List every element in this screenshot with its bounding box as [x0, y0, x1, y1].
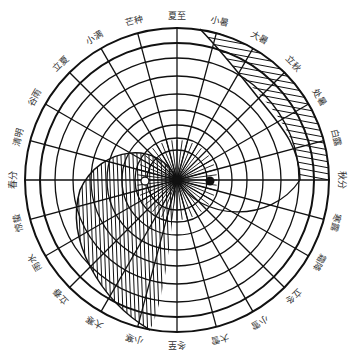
solar-term-label: 立春 — [50, 286, 71, 307]
solar-term-label: 小寒 — [124, 332, 144, 347]
hollow-eye-dot — [141, 177, 149, 185]
hatch-line — [190, 148, 340, 176]
hatch-line — [190, 46, 340, 74]
solar-term-label: 立冬 — [283, 286, 304, 307]
solar-term-label: 小满 — [84, 29, 105, 47]
solar-term-label: 小雪 — [249, 314, 270, 332]
hatch-line — [60, 130, 68, 340]
solar-terms-diagram: 夏至小暑大暑立秋处暑白露秋分寒露霜降立冬小雪大雪冬至小寒大寒立春雨水惊蛰春分清明… — [0, 0, 355, 358]
solar-term-label: 雨水 — [25, 252, 44, 273]
solid-eye-dot — [206, 177, 215, 186]
solar-term-label: 谷雨 — [26, 87, 44, 108]
hatch-line — [108, 130, 116, 340]
solar-term-label: 大雪 — [210, 332, 230, 347]
solar-term-label: 寒露 — [329, 213, 344, 233]
solar-term-label: 白露 — [329, 127, 344, 147]
hatch-line — [190, 112, 340, 140]
solar-term-label: 芒种 — [124, 13, 144, 28]
hatch-line — [190, 172, 340, 200]
solar-term-label: 冬至 — [168, 340, 186, 351]
solar-term-label: 大暑 — [249, 28, 270, 47]
solar-term-label: 大寒 — [84, 314, 105, 333]
solar-term-label: 秋分 — [337, 171, 348, 189]
solar-term-label: 清明 — [10, 127, 25, 147]
diagram-canvas: 夏至小暑大暑立秋处暑白露秋分寒露霜降立冬小雪大雪冬至小寒大寒立春雨水惊蛰春分清明… — [0, 0, 355, 358]
hatch-line — [84, 130, 92, 340]
solar-term-label: 立秋 — [283, 53, 304, 74]
hatch-line — [148, 130, 156, 340]
solar-term-label: 霜降 — [311, 252, 330, 273]
hatch-line — [190, 220, 340, 248]
solar-term-label: 处暑 — [311, 87, 330, 108]
solar-term-label: 春分 — [7, 171, 18, 189]
solar-term-label: 夏至 — [168, 11, 186, 21]
hatch-line — [112, 130, 120, 340]
solar-term-label: 立夏 — [50, 53, 71, 74]
solar-term-label: 惊蛰 — [10, 213, 25, 233]
solar-term-label: 小暑 — [210, 14, 230, 28]
center-dot — [173, 176, 181, 184]
